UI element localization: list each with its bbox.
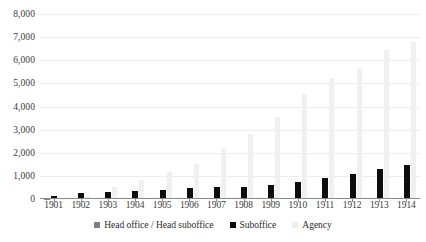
y-tick-label: 3,000 <box>13 125 35 135</box>
x-tick-label: 1905 <box>149 200 176 216</box>
bar-agency <box>248 134 253 199</box>
bar-agency <box>411 42 416 199</box>
bar-group <box>121 14 148 199</box>
legend-item[interactable]: Agency <box>292 220 332 230</box>
bar-suboffice <box>322 178 328 200</box>
legend-item[interactable]: Head office / Head suboffice <box>94 220 213 230</box>
y-axis: 8,0007,0006,0005,0004,0003,0002,0001,000… <box>0 14 38 199</box>
bar-group <box>40 14 67 199</box>
bar-group <box>176 14 203 199</box>
bar-group <box>203 14 230 199</box>
legend-label: Suboffice <box>240 220 277 230</box>
bar-agency <box>357 68 362 199</box>
y-tick-label: 8,000 <box>13 9 35 19</box>
legend-label: Agency <box>302 220 332 230</box>
x-tick-label: 1912 <box>339 200 366 216</box>
legend-label: Head office / Head suboffice <box>104 220 213 230</box>
chart-legend: Head office / Head subofficeSubofficeAge… <box>0 220 426 230</box>
x-tick-label: 1902 <box>67 200 94 216</box>
y-tick-label: 6,000 <box>13 55 35 65</box>
y-tick-label: 4,000 <box>13 102 35 112</box>
bar-suboffice <box>295 182 301 199</box>
x-tick-label: 1913 <box>366 200 393 216</box>
bar-agency <box>384 50 389 199</box>
plot-area <box>40 14 420 199</box>
bar-agency <box>221 148 226 199</box>
x-tick-label: 1910 <box>284 200 311 216</box>
bar-group <box>67 14 94 199</box>
x-tick-label: 1906 <box>176 200 203 216</box>
legend-swatch-icon <box>230 222 236 228</box>
bar-suboffice <box>404 165 410 199</box>
bars-layer <box>40 14 420 199</box>
bar-group <box>149 14 176 199</box>
bar-group <box>366 14 393 199</box>
bar-agency <box>275 117 280 199</box>
bar-agency <box>139 180 144 199</box>
bar-group <box>393 14 420 199</box>
y-tick-label: 2,000 <box>13 148 35 158</box>
y-tick-label: 7,000 <box>13 32 35 42</box>
bar-suboffice <box>350 174 356 199</box>
bar-group <box>311 14 338 199</box>
x-tick-label: 1907 <box>203 200 230 216</box>
bar-group <box>257 14 284 199</box>
bar-chart: 8,0007,0006,0005,0004,0003,0002,0001,000… <box>0 0 426 242</box>
bar-suboffice <box>268 185 274 199</box>
bar-group <box>339 14 366 199</box>
bar-agency <box>167 172 172 199</box>
y-tick-label: 0 <box>30 194 35 204</box>
legend-item[interactable]: Suboffice <box>230 220 277 230</box>
bar-agency <box>329 78 334 199</box>
bar-agency <box>194 164 199 199</box>
x-tick-label: 1914 <box>393 200 420 216</box>
x-tick-label: 1904 <box>121 200 148 216</box>
x-tick-label: 1909 <box>257 200 284 216</box>
bar-suboffice <box>377 169 383 199</box>
axis-baseline <box>40 198 420 199</box>
bar-group <box>94 14 121 199</box>
legend-swatch-icon <box>94 222 100 228</box>
legend-swatch-icon <box>292 222 298 228</box>
x-tick-label: 1911 <box>311 200 338 216</box>
y-tick-label: 5,000 <box>13 78 35 88</box>
y-tick-label: 1,000 <box>13 171 35 181</box>
x-tick-label: 1903 <box>94 200 121 216</box>
bar-group <box>230 14 257 199</box>
x-tick-label: 1908 <box>230 200 257 216</box>
x-axis: 1901190219031904190519061907190819091910… <box>40 200 420 216</box>
x-tick-label: 1901 <box>40 200 67 216</box>
bar-group <box>284 14 311 199</box>
bar-agency <box>302 94 307 199</box>
